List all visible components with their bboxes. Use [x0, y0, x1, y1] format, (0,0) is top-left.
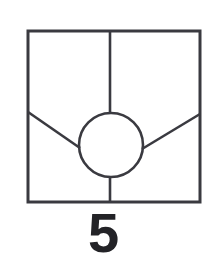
diagonal-line-right: [142, 114, 200, 149]
center-circle: [79, 113, 143, 177]
diagonal-line-left: [28, 112, 80, 148]
figure-number-label: 5: [0, 202, 207, 268]
figure-container: 5: [0, 0, 207, 268]
